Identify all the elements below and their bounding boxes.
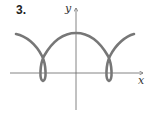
x-axis-label: x — [138, 74, 144, 87]
y-axis-label: y — [65, 2, 71, 15]
parametric-curve — [16, 33, 134, 81]
curve-diagram — [0, 0, 151, 118]
